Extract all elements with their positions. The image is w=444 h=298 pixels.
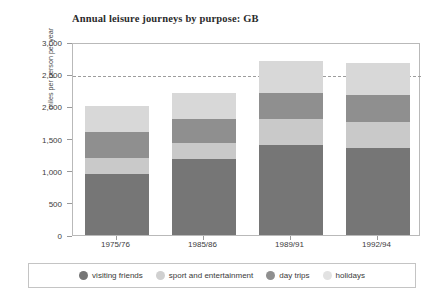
y-axis-tick-label: 1,000 xyxy=(42,167,62,176)
bar-segment xyxy=(85,174,149,235)
bar-stack xyxy=(259,42,323,235)
x-axis-tick-label: 1985/86 xyxy=(188,240,217,249)
legend-item[interactable]: visiting friends xyxy=(79,271,143,280)
x-axis-tick-mark xyxy=(290,236,291,240)
y-axis-tick-label: 1,500 xyxy=(42,135,62,144)
bar-stack xyxy=(346,42,410,235)
bar-segment xyxy=(259,93,323,119)
legend-label: sport and entertainment xyxy=(169,271,254,280)
bar-segment xyxy=(85,106,149,132)
legend-label: day trips xyxy=(279,271,309,280)
bar-segment xyxy=(172,119,236,143)
y-axis-tick-label: 0 xyxy=(58,232,62,241)
bar-segment xyxy=(259,61,323,93)
plot-area xyxy=(72,43,420,236)
bar-stack xyxy=(172,42,236,235)
bar-segment xyxy=(346,63,410,95)
legend-label: holidays xyxy=(336,271,365,280)
bar-stack xyxy=(85,42,149,235)
bar-segment xyxy=(259,145,323,235)
x-axis-tick-label: 1989/91 xyxy=(275,240,304,249)
legend-swatch-circle-icon xyxy=(79,271,88,280)
chart-legend: visiting friendssport and entertainmentd… xyxy=(28,263,416,288)
legend-item[interactable]: holidays xyxy=(323,271,365,280)
chart-title: Annual leisure journeys by purpose: GB xyxy=(72,13,259,24)
x-axis-tick-label: 1975/76 xyxy=(101,240,130,249)
legend-label: visiting friends xyxy=(92,271,143,280)
y-axis-tick-label: 2,000 xyxy=(42,103,62,112)
bar-segment xyxy=(259,119,323,145)
bar-segment xyxy=(85,158,149,174)
bar-segment xyxy=(172,93,236,119)
x-axis-tick-label: 1992/94 xyxy=(362,240,391,249)
x-axis-tick-mark xyxy=(203,236,204,240)
x-axis-tick-mark xyxy=(116,236,117,240)
bar-segment xyxy=(85,132,149,158)
y-axis-tick-label: 3,000 xyxy=(42,39,62,48)
bar-segment xyxy=(346,95,410,122)
chart-container: Annual leisure journeys by purpose: GB m… xyxy=(0,0,444,298)
y-axis-tick-label: 500 xyxy=(49,199,62,208)
x-axis-tick-mark xyxy=(377,236,378,240)
legend-swatch-circle-icon xyxy=(323,271,332,280)
legend-item[interactable]: sport and entertainment xyxy=(156,271,254,280)
bar-segment xyxy=(346,122,410,148)
bar-segment xyxy=(172,159,236,235)
y-axis-tick-label: 2,500 xyxy=(42,71,62,80)
legend-item[interactable]: day trips xyxy=(266,271,309,280)
legend-swatch-circle-icon xyxy=(266,271,275,280)
bar-segment xyxy=(346,148,410,235)
bar-segment xyxy=(172,143,236,159)
legend-swatch-circle-icon xyxy=(156,271,165,280)
